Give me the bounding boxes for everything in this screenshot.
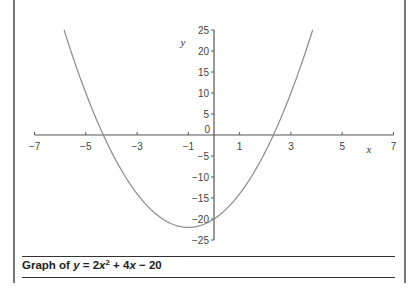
y-tick-label: 5 xyxy=(203,109,209,120)
x-tick-label: −3 xyxy=(131,141,143,152)
y-axis-label: y xyxy=(180,36,186,48)
x-tick-label: −7 xyxy=(29,141,41,152)
y-tick-label: 15 xyxy=(198,67,210,78)
x-tick-label: −5 xyxy=(80,141,92,152)
y-tick-label: 10 xyxy=(198,88,210,99)
x-axis-label: x xyxy=(366,143,372,155)
x-tick-label: 5 xyxy=(339,141,345,152)
y-tick-label: −10 xyxy=(192,172,209,183)
parabola-curve xyxy=(64,30,313,228)
x-tick-label: 7 xyxy=(391,141,397,152)
y-tick-label: −15 xyxy=(192,193,209,204)
y-tick-label: −25 xyxy=(192,235,209,246)
caption-bottom-rule xyxy=(22,277,395,278)
y-tick-label: 25 xyxy=(198,25,210,36)
y-tick-label: −5 xyxy=(198,151,210,162)
x-tick-label: 1 xyxy=(237,141,243,152)
y-tick-label-zero: 0 xyxy=(204,124,210,135)
parabola-chart: −7−5−3−113572520151050−5−10−15−20−25xy xyxy=(0,0,418,293)
chart-caption: Graph of y = 2x2 + 4x − 20 xyxy=(22,258,162,271)
caption-top-rule xyxy=(22,256,395,257)
y-tick-label: 20 xyxy=(198,46,210,57)
caption-tail: − 20 xyxy=(136,259,162,271)
x-tick-label: −1 xyxy=(183,141,195,152)
x-tick-label: 3 xyxy=(288,141,294,152)
caption-plus: + 4 xyxy=(110,259,130,271)
caption-eq: = 2 xyxy=(80,259,100,271)
caption-prefix: Graph of xyxy=(22,259,73,271)
